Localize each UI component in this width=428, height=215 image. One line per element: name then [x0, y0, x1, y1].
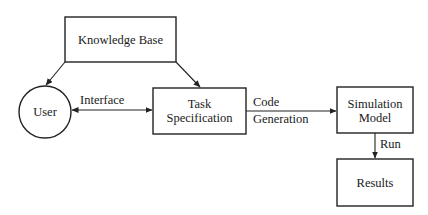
run-edge-label: Run	[380, 137, 402, 151]
interface-edge-label: Interface	[80, 93, 125, 107]
edge-kb-to-task-spec	[176, 62, 200, 87]
task-spec-label-line1: Task	[188, 97, 212, 111]
code-edge-label: Code	[253, 95, 280, 109]
sim-model-label-line2: Model	[359, 111, 392, 125]
node-results: Results	[337, 159, 413, 206]
flowchart-diagram: Knowledge Base User Task Specification S…	[0, 0, 428, 215]
task-spec-label-line2: Specification	[167, 111, 234, 125]
sim-model-label-line1: Simulation	[348, 97, 404, 111]
node-task-specification: Task Specification	[153, 88, 246, 134]
edge-kb-to-user	[46, 62, 65, 85]
generation-edge-label: Generation	[253, 112, 309, 126]
user-label: User	[33, 105, 57, 119]
results-label: Results	[357, 176, 394, 190]
node-knowledge-base: Knowledge Base	[65, 17, 176, 62]
node-simulation-model: Simulation Model	[337, 87, 413, 133]
node-user: User	[19, 86, 71, 138]
knowledge-base-label: Knowledge Base	[78, 33, 163, 47]
